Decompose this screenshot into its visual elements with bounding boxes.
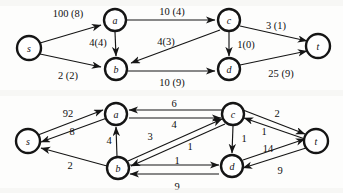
node-b-label: b [114,64,119,75]
edge-t-d [243,148,306,168]
node-s-label: s [26,136,30,147]
edge-label-t-d: 9 [277,165,282,176]
edge-label-s-a: 92 [63,108,74,119]
node-t-label: t [317,41,320,52]
edge-label-b-a: 4 [106,135,112,146]
edge-label-d-t: 25 (9) [268,68,294,80]
edge-b-a [116,127,117,157]
edge-t-c [244,118,305,139]
graph-drawing-canvas: s a b c d t 100 (8) 2 (2) 10 (4) 4(4) 4(… [0,0,343,193]
edge-label-b-d: 10 (9) [159,77,185,89]
edge-label-b-c: 3 [147,131,152,142]
edge-c-b [131,30,220,63]
edge-label-group-bottom: 92 8 2 4 6 4 3 1 2 1 1 1 9 14 9 [63,98,283,192]
scan-artifact-middle [0,90,343,96]
scan-artifact-top [0,0,343,6]
edge-label-d-t: 14 [263,143,274,154]
edge-label-s-a: 100 (8) [53,8,84,20]
graph-flow-network-top: s a b c d t 100 (8) 2 (2) 10 (4) 4(4) 4(… [17,6,330,89]
edge-label-c-a: 6 [171,98,176,109]
edge-label-c-d: 1(0) [237,39,255,51]
node-t-label: t [315,136,318,147]
edge-c-d [232,126,233,153]
scan-artifact-bottom [0,188,343,193]
node-b-label: b [116,163,121,174]
edge-label-a-b: 4(4) [89,37,107,49]
edge-label-c-t: 3 (1) [266,20,287,32]
edge-label-b-s: 2 [67,160,72,171]
graph-residual-network-bottom: s a b c d t 92 8 2 4 6 4 3 1 [16,98,328,192]
node-s-label: s [27,43,31,54]
edge-label-c-t: 2 [274,108,279,119]
figure-flow-and-residual-networks: s a b c d t 100 (8) 2 (2) 10 (4) 4(4) 4(… [0,0,343,193]
edge-d-t [243,139,305,160]
edge-label-a-s: 8 [69,126,74,137]
edge-a-b [115,32,116,56]
node-a-label: a [114,109,119,120]
edge-label-a-c: 10 (4) [159,6,185,18]
node-c-label: c [227,15,232,26]
edge-d-t [240,51,307,65]
edge-label-c-d: 1 [241,133,246,144]
edge-label-s-b: 2 (2) [58,70,79,82]
node-a-label: a [113,15,118,26]
edge-label-c-b: 1 [187,141,192,152]
edge-b-s [41,148,107,166]
node-c-label: c [231,109,236,120]
edge-label-b-d: 1 [174,155,179,166]
edge-label-t-c: 1 [261,126,266,137]
edge-label-a-c: 4 [171,119,177,130]
edge-label-c-b: 4(3) [157,36,175,48]
edge-s-b [40,54,101,67]
